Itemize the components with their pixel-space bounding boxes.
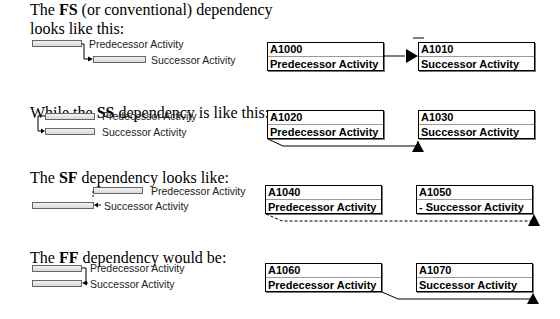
fs-gantt-link (82, 44, 93, 62)
sf-gantt-link (93, 191, 101, 208)
ff-network-link (382, 292, 539, 304)
ff-gantt-link (82, 268, 88, 286)
dependency-connectors (0, 0, 560, 319)
fs-network-link (384, 38, 424, 63)
ss-network-link (268, 139, 424, 152)
ss-gantt-link (38, 116, 45, 134)
sf-network-link (266, 214, 540, 226)
